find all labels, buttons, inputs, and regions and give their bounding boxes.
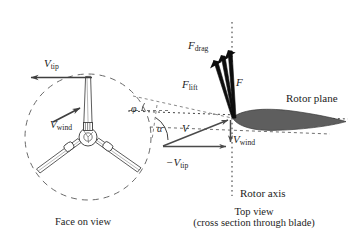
- top-view-caption-line1: Top view: [234, 206, 273, 217]
- alpha-angle-label: α: [157, 124, 162, 135]
- v-wind-label-top-view: Vwind: [233, 134, 255, 147]
- v-tip-label: Vtip: [44, 58, 59, 71]
- v-relative-label: V: [182, 123, 189, 135]
- v-relative-arrow: [163, 120, 228, 146]
- relative-wind-extension: [133, 96, 232, 118]
- blade-lower-right: [95, 138, 141, 172]
- minus-v-tip-label: −Vtip: [166, 157, 188, 170]
- wind-turbine-blade-diagram: Vtip Vwind φ α Fdrag Flift F V Vwind −Vt…: [0, 0, 356, 240]
- airfoil-cross-section: [233, 109, 347, 130]
- top-view-caption: Top view (cross section through blade): [174, 206, 334, 228]
- top-view-group: [128, 22, 348, 196]
- face-on-view-caption: Face on view: [55, 216, 111, 227]
- phi-angle-label: φ: [131, 104, 137, 115]
- rotor-plane-label: Rotor plane: [286, 93, 338, 105]
- f-resultant-label: F: [236, 77, 243, 89]
- blade-lower-left: [37, 139, 82, 174]
- blade-up: [84, 76, 93, 130]
- rotor-axis-label: Rotor axis: [240, 188, 286, 200]
- f-drag-label: Fdrag: [188, 40, 208, 53]
- face-on-view-group: [25, 74, 151, 200]
- blade-up-root: [84, 123, 93, 131]
- top-view-caption-line2: (cross section through blade): [174, 217, 334, 228]
- f-lift-label: Flift: [182, 79, 198, 92]
- v-wind-label-face-view: Vwind: [50, 119, 72, 132]
